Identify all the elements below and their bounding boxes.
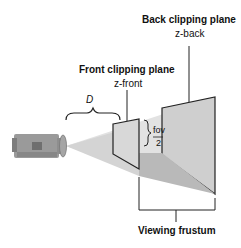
fov-denominator: 2 [156,138,161,149]
frustum-label: Viewing frustum [138,225,216,236]
frustum-diagram [0,0,241,248]
back-plane-title: Back clipping plane [142,14,236,25]
front-plane-sub: z-front [114,78,142,89]
fov-numerator: fov [153,125,165,136]
distance-brace [66,108,120,120]
distance-label: D [86,94,93,105]
back-plane-sub: z-back [175,28,204,39]
front-plane-title: Front clipping plane [79,64,175,75]
camera-icon [12,134,67,158]
